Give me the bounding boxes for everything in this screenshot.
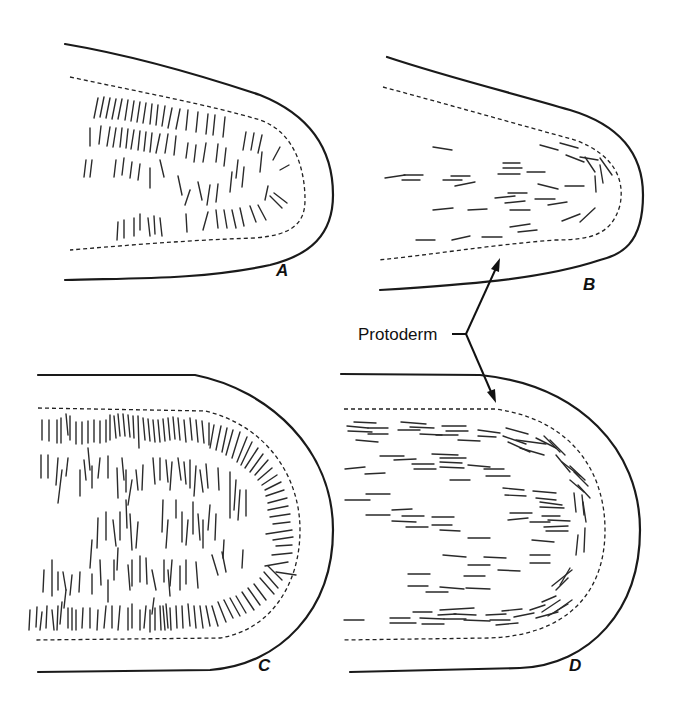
panel-a: A	[65, 44, 333, 280]
protoderm-arrow-to-d	[466, 334, 492, 394]
protoderm-arrow-to-b	[466, 266, 497, 334]
protoderm-annotation: Protoderm	[358, 258, 500, 403]
panel-a-outer-outline	[65, 44, 333, 280]
panel-a-cell-divisions	[84, 97, 289, 240]
panel-c: C	[29, 375, 333, 675]
panel-b-label: B	[583, 275, 595, 294]
panel-c-label: C	[258, 656, 271, 675]
panel-d-label: D	[569, 656, 581, 675]
panel-b-cell-divisions	[385, 143, 612, 240]
panel-d-outer-outline	[341, 374, 640, 672]
panel-d: D	[341, 374, 640, 675]
panel-a-protoderm-boundary	[70, 77, 305, 250]
panel-d-cell-divisions	[344, 422, 590, 625]
panel-b: B	[378, 57, 643, 294]
apex-division-figure: A B P	[0, 0, 676, 708]
arrowhead-icon-b	[491, 258, 500, 272]
panel-a-label: A	[275, 261, 288, 280]
panel-c-cell-divisions	[29, 414, 296, 632]
arrowhead-icon-d	[487, 389, 496, 403]
protoderm-label: Protoderm	[358, 325, 437, 344]
